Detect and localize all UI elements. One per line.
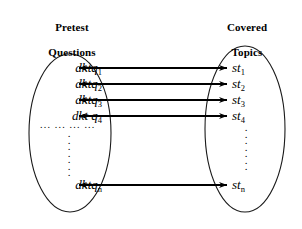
right-node-st2-sub: 2 <box>241 83 245 93</box>
ellipsis-dot: . <box>243 163 249 170</box>
left-node-dktq2: dktq2 <box>75 77 102 90</box>
left-node-dktq3-base: dktq <box>75 92 97 107</box>
right-node-st1: st1 <box>232 61 245 74</box>
right-set-title: Covered Topics <box>205 8 289 71</box>
right-node-st3-base: st <box>232 92 241 107</box>
right-set-title-line2: Topics <box>205 46 289 59</box>
right-node-st3: st3 <box>232 93 245 106</box>
right-node-st4-base: st <box>232 108 241 123</box>
left-node-dktq3-sub: 3 <box>98 99 102 109</box>
right-vertical-ellipsis: . . . . . . . <box>243 124 249 170</box>
right-node-st4: st4 <box>232 109 245 122</box>
right-node-st2: st2 <box>232 77 245 90</box>
left-vertical-ellipsis: . . . . . . . <box>66 130 72 176</box>
left-node-dktqn: dktqn <box>75 178 102 191</box>
left-node-dktq1-base: dktq <box>75 60 97 75</box>
left-node-dktq4-sub: 4 <box>98 115 102 125</box>
left-node-dktq2-sub: 2 <box>98 83 102 93</box>
ellipsis-dot: . <box>66 169 72 176</box>
right-node-stn: stn <box>232 178 245 191</box>
right-node-st3-sub: 3 <box>241 99 245 109</box>
diagram-canvas: Pretest Questions Covered Topics dktq1 d… <box>0 0 302 229</box>
right-node-st1-sub: 1 <box>241 67 245 77</box>
right-node-stn-base: st <box>232 177 241 192</box>
left-node-dktq1-sub: 1 <box>98 67 102 77</box>
left-node-dktq3: dktq3 <box>75 93 102 106</box>
right-set-title-line1: Covered <box>205 21 289 34</box>
right-node-st1-base: st <box>232 60 241 75</box>
right-node-stn-sub: n <box>241 184 245 194</box>
left-set-title-line1: Pretest <box>30 21 114 34</box>
left-node-dktqn-sub: n <box>98 184 102 194</box>
left-node-dktq1: dktq1 <box>75 61 102 74</box>
left-node-dktqn-base: dktq <box>75 177 97 192</box>
left-set-title-line2: Questions <box>30 46 114 59</box>
right-node-st2-base: st <box>232 76 241 91</box>
left-node-dktq2-base: dktq <box>75 76 97 91</box>
